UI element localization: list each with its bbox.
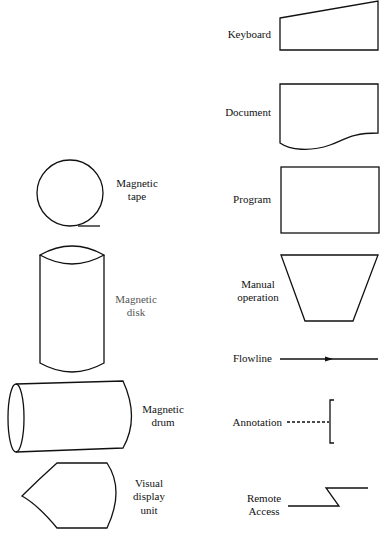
arrowhead-icon bbox=[325, 357, 333, 362]
remote-access-symbol: Remote Access bbox=[247, 488, 368, 517]
visual-display-unit-label-line2: display bbox=[133, 490, 165, 502]
keyboard-symbol: Keyboard bbox=[228, 1, 378, 50]
program-symbol: Program bbox=[233, 167, 379, 233]
magnetic-disk-label-line2: disk bbox=[127, 306, 146, 318]
magnetic-tape-reel bbox=[37, 160, 103, 226]
visual-display-unit-shape bbox=[22, 463, 116, 528]
remote-access-label-line2: Access bbox=[248, 505, 279, 517]
remote-access-shape bbox=[288, 488, 368, 506]
keyboard-label: Keyboard bbox=[228, 28, 272, 40]
keyboard-shape bbox=[280, 1, 378, 50]
magnetic-drum-symbol: Magnetic drum bbox=[8, 381, 184, 452]
magnetic-drum-label-line1: Magnetic bbox=[142, 403, 184, 415]
manual-operation-symbol: Manual operation bbox=[237, 255, 378, 321]
magnetic-disk-label-line1: Magnetic bbox=[115, 293, 157, 305]
visual-display-unit-symbol: Visual display unit bbox=[22, 463, 165, 528]
annotation-label: Annotation bbox=[233, 416, 283, 428]
manual-operation-shape bbox=[281, 255, 378, 321]
visual-display-unit-label-line3: unit bbox=[140, 504, 157, 516]
manual-operation-label-line2: operation bbox=[237, 291, 279, 303]
document-symbol: Document bbox=[225, 84, 378, 149]
magnetic-tape-label-line2: tape bbox=[128, 190, 146, 202]
document-shape bbox=[280, 84, 378, 149]
magnetic-tape-symbol: Magnetic tape bbox=[37, 160, 158, 226]
magnetic-tape-label-line1: Magnetic bbox=[116, 177, 158, 189]
document-label: Document bbox=[225, 106, 271, 118]
magnetic-disk-symbol: Magnetic disk bbox=[40, 246, 157, 372]
magnetic-drum-body bbox=[16, 381, 132, 452]
magnetic-disk-top bbox=[40, 246, 104, 264]
magnetic-drum-end bbox=[8, 384, 24, 452]
magnetic-disk-body bbox=[40, 255, 104, 372]
manual-operation-label-line1: Manual bbox=[241, 278, 275, 290]
flowline-label: Flowline bbox=[233, 352, 272, 364]
magnetic-drum-label-line2: drum bbox=[151, 416, 175, 428]
remote-access-label-line1: Remote bbox=[247, 492, 281, 504]
program-shape bbox=[281, 167, 379, 233]
annotation-bracket bbox=[330, 400, 334, 443]
program-label: Program bbox=[233, 193, 271, 205]
annotation-symbol: Annotation bbox=[233, 400, 335, 443]
flowchart-symbols-diagram: Keyboard Document Program Manual operati… bbox=[0, 0, 387, 537]
visual-display-unit-label-line1: Visual bbox=[135, 477, 163, 489]
flowline-symbol: Flowline bbox=[233, 352, 378, 364]
